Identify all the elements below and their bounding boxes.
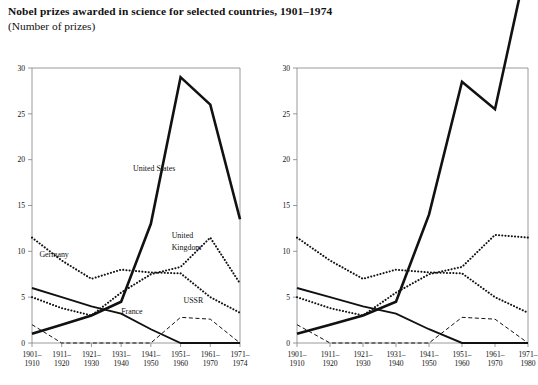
figure-subtitle: (Number of prizes) — [8, 19, 528, 34]
x-tick-label-left: 1961– — [201, 350, 220, 359]
x-tick-label-left: 1921– — [82, 350, 101, 359]
x-tick-label-left: 1940 — [114, 359, 129, 368]
series-label-ussr: USSR — [184, 296, 204, 305]
y-tick-label-right: 5 — [286, 293, 290, 302]
x-tick-label-left: 1950 — [143, 359, 158, 368]
x-tick-label-right: 1931– — [387, 350, 406, 359]
figure-root: Nobel prizes awarded in science for sele… — [0, 0, 538, 385]
x-tick-label-left: 1941– — [141, 350, 160, 359]
y-tick-label-right: 30 — [282, 64, 290, 73]
x-tick-label-right: 1901– — [288, 350, 307, 359]
x-tick-label-left: 1911– — [52, 350, 71, 359]
x-tick-label-right: 1910 — [289, 359, 304, 368]
chart-canvas: 0510152025301901–19101911–19201921–19301… — [0, 0, 538, 385]
x-tick-label-left: 1910 — [24, 359, 39, 368]
x-tick-label-right: 1930 — [355, 359, 370, 368]
chart-panel-left: 0510152025301901–19101911–19201921–19301… — [17, 64, 249, 368]
figure-header: Nobel prizes awarded in science for sele… — [8, 4, 528, 34]
x-tick-label-left: 1920 — [54, 359, 69, 368]
y-tick-label-left: 30 — [17, 64, 25, 73]
y-tick-label-right: 0 — [286, 339, 290, 348]
x-tick-label-right: 1941– — [420, 350, 439, 359]
y-tick-label-left: 10 — [17, 247, 25, 256]
x-tick-label-right: 1921– — [354, 350, 373, 359]
x-tick-label-right: 1961– — [486, 350, 505, 359]
x-tick-label-left: 1971– — [231, 350, 250, 359]
series-label-united-states: United States — [133, 164, 175, 173]
x-tick-label-right: 1960 — [454, 359, 469, 368]
x-tick-label-right: 1940 — [388, 359, 403, 368]
y-tick-label-right: 25 — [282, 110, 290, 119]
y-tick-label-left: 20 — [17, 155, 25, 164]
series-label-germany: Germany — [39, 250, 68, 259]
y-tick-label-right: 20 — [282, 155, 290, 164]
x-tick-label-left: 1970 — [203, 359, 218, 368]
x-tick-label-right: 1970 — [487, 359, 502, 368]
series-line-germany — [297, 238, 528, 313]
chart-panel-right: 0510152025301901–19101911–19201921–19301… — [282, 0, 537, 368]
x-tick-label-left: 1960 — [173, 359, 188, 368]
y-tick-label-left: 0 — [21, 339, 25, 348]
x-tick-label-right: 1971– — [519, 350, 538, 359]
x-tick-label-right: 1920 — [322, 359, 337, 368]
y-tick-label-right: 10 — [282, 247, 290, 256]
x-tick-label-right: 1911– — [321, 350, 340, 359]
page-title: Nobel prizes awarded in science for sele… — [8, 4, 528, 19]
x-tick-label-left: 1951– — [171, 350, 190, 359]
x-tick-label-left: 1931– — [112, 350, 131, 359]
x-tick-label-right: 1951– — [453, 350, 472, 359]
x-tick-label-left: 1930 — [84, 359, 99, 368]
x-tick-label-right: 1980 — [520, 359, 535, 368]
series-label-kingdom: Kingdom — [172, 243, 203, 252]
x-tick-label-right: 1950 — [421, 359, 436, 368]
x-tick-label-left: 1901– — [23, 350, 42, 359]
series-label-united: United — [172, 231, 194, 240]
x-tick-label-left: 1974 — [232, 359, 247, 368]
y-tick-label-left: 15 — [17, 201, 25, 210]
series-label-france: France — [121, 307, 143, 316]
y-tick-label-left: 5 — [21, 293, 25, 302]
y-tick-label-left: 25 — [17, 110, 25, 119]
y-tick-label-right: 15 — [282, 201, 290, 210]
series-line-united-kingdom — [297, 235, 528, 316]
plot-frame-left — [32, 68, 240, 343]
